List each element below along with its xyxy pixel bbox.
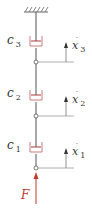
arrow-up-icon xyxy=(64,42,68,48)
label-x1-dot: ˙x1 xyxy=(72,146,85,158)
node-1 xyxy=(34,166,38,170)
label-c2: c2 xyxy=(7,87,21,101)
label-force: F xyxy=(21,188,29,202)
arrow-up-icon xyxy=(64,96,68,102)
damper-c2 xyxy=(30,90,42,100)
arrow-up-icon xyxy=(64,148,68,154)
label-x3-dot: ˙x3 xyxy=(72,40,85,52)
ground-support xyxy=(24,7,48,12)
node-2 xyxy=(34,114,38,118)
label-x2-dot: ˙x2 xyxy=(72,94,85,106)
label-c3: c3 xyxy=(7,34,21,48)
force-arrow xyxy=(34,172,39,204)
label-c1: c1 xyxy=(7,139,21,153)
damper-c1 xyxy=(30,142,42,152)
damper-c3 xyxy=(30,36,42,46)
node-3 xyxy=(34,60,38,64)
